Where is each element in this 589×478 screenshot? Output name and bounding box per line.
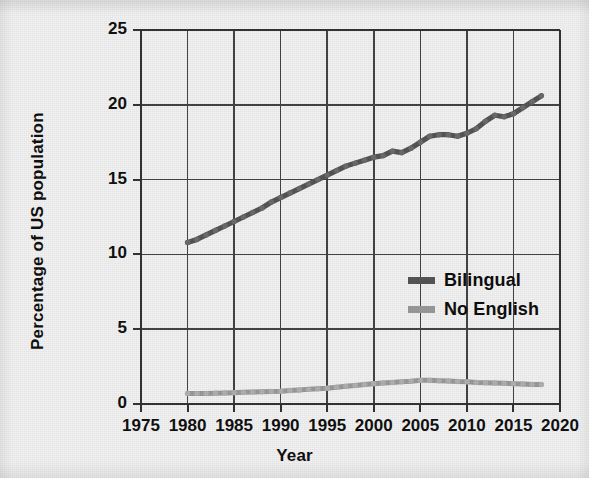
series-marker [334, 168, 339, 173]
series-marker [287, 190, 292, 195]
grid-layer [141, 30, 560, 404]
series-marker [455, 134, 460, 139]
series-marker [362, 382, 367, 387]
series-marker [539, 382, 544, 387]
x-tick-label: 2020 [532, 416, 588, 436]
series-marker [362, 157, 367, 162]
series-marker [185, 391, 190, 396]
series-marker [511, 111, 516, 116]
series-marker [418, 140, 423, 145]
chart-figure: Percentage of US population Year 2520151… [0, 0, 589, 478]
series-marker [427, 134, 432, 139]
series-marker [436, 378, 441, 383]
series-marker [241, 390, 246, 395]
series-marker [520, 381, 525, 386]
series-marker [446, 378, 451, 383]
legend-label-bilingual: Bilingual [444, 270, 521, 291]
y-tick-label: 0 [81, 393, 127, 413]
series-marker [278, 388, 283, 393]
series-marker [539, 93, 544, 98]
series-marker [325, 172, 330, 177]
series-marker [371, 381, 376, 386]
series-marker [455, 379, 460, 384]
y-tick-label: 10 [81, 243, 127, 263]
series-marker [241, 214, 246, 219]
series-marker [213, 391, 218, 396]
series-marker [222, 223, 227, 228]
series-marker [231, 219, 236, 224]
series-marker [408, 379, 413, 384]
series-marker [343, 163, 348, 168]
chart-legend: Bilingual No English [408, 266, 539, 324]
series-marker [408, 145, 413, 150]
legend-item-bilingual[interactable]: Bilingual [408, 266, 539, 295]
series-marker [352, 160, 357, 165]
series-marker [269, 199, 274, 204]
legend-item-no-english[interactable]: No English [408, 295, 539, 324]
series-marker [501, 114, 506, 119]
series-marker [352, 383, 357, 388]
series-marker [250, 389, 255, 394]
series-marker [436, 132, 441, 137]
series-marker [464, 379, 469, 384]
series-marker [213, 228, 218, 233]
series-marker [203, 232, 208, 237]
series-marker [399, 379, 404, 384]
series-marker [259, 389, 264, 394]
series-marker [325, 385, 330, 390]
y-tick-label: 20 [81, 94, 127, 114]
series-marker [427, 378, 432, 383]
series-marker [529, 382, 534, 387]
series-marker [185, 240, 190, 245]
series-marker [464, 131, 469, 136]
series-layer [185, 93, 544, 396]
series-marker [380, 153, 385, 158]
y-axis-title: Percentage of US population [28, 112, 48, 350]
x-axis-title: Year [0, 446, 589, 466]
series-marker [278, 195, 283, 200]
series-marker [380, 380, 385, 385]
series-marker [315, 386, 320, 391]
series-marker [474, 380, 479, 385]
series-marker [501, 381, 506, 386]
series-marker [334, 385, 339, 390]
series-marker [511, 381, 516, 386]
series-marker [446, 132, 451, 137]
series-marker [390, 148, 395, 153]
series-marker [222, 390, 227, 395]
series-marker [483, 119, 488, 124]
series-marker [315, 177, 320, 182]
series-marker [371, 154, 376, 159]
series-marker [203, 391, 208, 396]
series-marker [259, 205, 264, 210]
series-marker [418, 378, 423, 383]
y-tick-label: 25 [81, 19, 127, 39]
legend-label-no-english: No English [444, 299, 539, 320]
series-marker [390, 380, 395, 385]
series-marker [474, 126, 479, 131]
series-marker [520, 105, 525, 110]
series-marker [194, 391, 199, 396]
series-marker [231, 390, 236, 395]
series-marker [287, 388, 292, 393]
series-marker [306, 387, 311, 392]
y-tick-label: 15 [81, 169, 127, 189]
series-marker [492, 113, 497, 118]
y-tick-label: 5 [81, 318, 127, 338]
axis-frame [141, 30, 560, 404]
series-marker [483, 380, 488, 385]
series-marker [269, 389, 274, 394]
axis-ticks [133, 30, 560, 412]
series-line-bilingual [188, 96, 542, 243]
legend-swatch-no-english [408, 306, 435, 313]
series-marker [194, 237, 199, 242]
series-marker [529, 99, 534, 104]
series-marker [343, 384, 348, 389]
series-marker [306, 181, 311, 186]
legend-swatch-bilingual [408, 277, 435, 284]
series-marker [297, 387, 302, 392]
series-marker [250, 210, 255, 215]
series-marker [492, 380, 497, 385]
series-marker [399, 150, 404, 155]
series-marker [297, 186, 302, 191]
